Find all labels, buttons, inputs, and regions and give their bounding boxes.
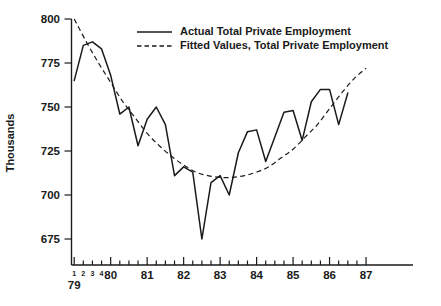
legend-label-actual: Actual Total Private Employment xyxy=(180,25,351,37)
x-tick-label: 80 xyxy=(104,269,117,281)
y-axis-title: Thousands xyxy=(4,114,16,173)
x-quarter-label: 1 xyxy=(72,270,76,277)
x-tick-label: 79 xyxy=(68,279,81,291)
x-tick-label: 87 xyxy=(360,269,373,281)
y-tick-label: 725 xyxy=(41,145,61,157)
y-axis-ticks xyxy=(65,19,72,239)
x-axis-ticks xyxy=(74,257,366,265)
x-axis-quarter-labels: 1234 xyxy=(72,270,103,277)
x-tick-label: 84 xyxy=(250,269,263,281)
y-axis-tick-labels: 800 775 750 725 700 675 xyxy=(41,13,61,245)
series-line-actual xyxy=(74,42,348,239)
x-quarter-label: 4 xyxy=(100,270,104,277)
y-tick-label: 775 xyxy=(41,57,61,69)
y-tick-label: 675 xyxy=(41,233,61,245)
x-quarter-label: 3 xyxy=(90,270,94,277)
legend-label-fitted: Fitted Values, Total Private Employment xyxy=(180,39,389,51)
x-quarter-label: 2 xyxy=(81,270,85,277)
chart-container: Thousands 800 775 750 725 700 675 798081… xyxy=(0,0,441,306)
y-tick-label: 700 xyxy=(41,189,60,201)
x-axis-tick-labels: 798081828384858687 xyxy=(68,269,373,291)
y-tick-label: 750 xyxy=(41,101,60,113)
chart-legend: Actual Total Private Employment Fitted V… xyxy=(137,25,389,51)
y-tick-label: 800 xyxy=(41,13,60,25)
employment-line-chart: Thousands 800 775 750 725 700 675 798081… xyxy=(0,0,441,306)
x-tick-label: 82 xyxy=(177,269,190,281)
x-tick-label: 86 xyxy=(323,269,336,281)
x-tick-label: 81 xyxy=(141,269,154,281)
x-tick-label: 83 xyxy=(214,269,227,281)
x-tick-label: 85 xyxy=(287,269,300,281)
